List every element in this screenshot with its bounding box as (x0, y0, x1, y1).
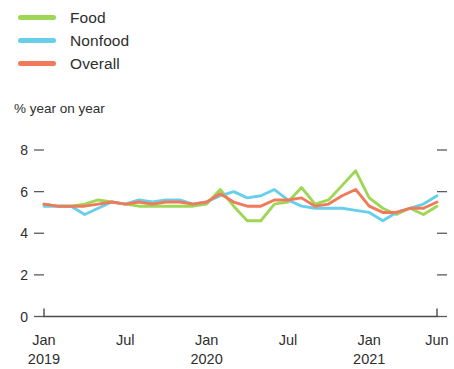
y-tick-label: 0 (20, 309, 28, 325)
y-axis-tick-labels: 86420 (20, 142, 28, 325)
y-tick-label: 8 (20, 142, 28, 158)
y-tick-label: 6 (20, 184, 28, 200)
y-axis-ticks-right (437, 150, 447, 317)
x-axis-tick-labels: Jan2019JulJan2020JulJan2021Jun (28, 332, 449, 367)
x-axis-line (44, 309, 437, 317)
data-series-group (44, 171, 437, 221)
x-tick-label-month: Jun (425, 332, 448, 348)
y-tick-label: 2 (20, 267, 28, 283)
x-tick-label-year: 2019 (28, 351, 60, 367)
x-tick-label-month: Jul (116, 332, 135, 348)
plot-area: 86420 Jan2019JulJan2020JulJan2021Jun (0, 0, 454, 369)
x-tick-label-month: Jan (358, 332, 381, 348)
x-tick-label-month: Jan (195, 332, 218, 348)
x-tick-label-year: 2021 (353, 351, 385, 367)
y-tick-label: 4 (20, 225, 28, 241)
chart-figure: Food Nonfood Overall % year on year 8642… (0, 0, 454, 369)
x-tick-label-month: Jan (32, 332, 55, 348)
y-axis-ticks (34, 150, 44, 317)
x-tick-label-month: Jul (279, 332, 298, 348)
x-tick-label-year: 2020 (190, 351, 222, 367)
